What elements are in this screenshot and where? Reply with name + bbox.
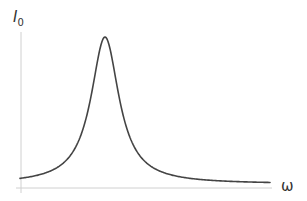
- resonance-chart: [0, 0, 307, 201]
- resonance-curve: [20, 37, 270, 182]
